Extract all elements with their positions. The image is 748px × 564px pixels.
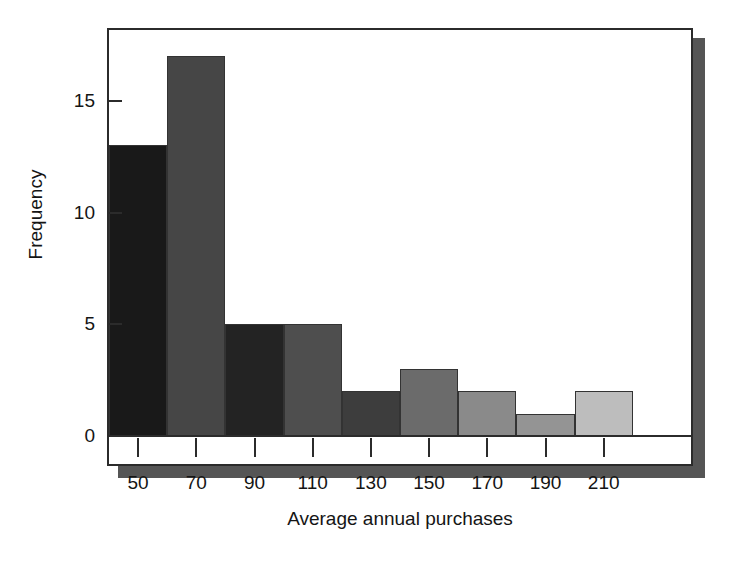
y-axis-tick-label: 5 xyxy=(47,314,95,333)
y-axis-tick xyxy=(109,212,122,214)
x-axis-baseline xyxy=(109,435,691,437)
histogram-bar xyxy=(516,414,574,436)
plot-area xyxy=(109,30,691,436)
histogram-bar xyxy=(167,56,225,436)
figure-shadow-right xyxy=(693,38,705,478)
x-axis-tick xyxy=(312,438,314,457)
x-axis-tick xyxy=(137,438,139,457)
x-axis-tick xyxy=(195,438,197,457)
x-axis-tick xyxy=(370,438,372,457)
y-axis-title: Frequency xyxy=(26,135,45,295)
y-axis-tick xyxy=(109,323,122,325)
histogram-bar xyxy=(109,145,167,436)
x-axis-tick xyxy=(545,438,547,457)
histogram-bar xyxy=(342,391,400,436)
y-axis-tick-label: 15 xyxy=(47,91,95,110)
x-axis-tick xyxy=(428,438,430,457)
x-axis-title: Average annual purchases xyxy=(107,508,693,530)
histogram-figure: 051015 507090110130150170190210 Frequenc… xyxy=(0,0,748,564)
x-axis-tick xyxy=(486,438,488,457)
histogram-bar xyxy=(225,324,283,436)
histogram-bar xyxy=(284,324,342,436)
y-axis-tick-label: 10 xyxy=(47,203,95,222)
histogram-bar xyxy=(400,369,458,436)
x-axis-tick-label: 210 xyxy=(569,472,639,494)
x-axis-tick xyxy=(254,438,256,457)
y-axis-tick-label: 0 xyxy=(47,426,95,445)
histogram-bar xyxy=(458,391,516,436)
bar-series xyxy=(109,30,691,436)
y-axis-tick xyxy=(109,100,122,102)
histogram-bar xyxy=(575,391,633,436)
x-axis-tick xyxy=(603,438,605,457)
y-axis-tick xyxy=(109,435,122,437)
